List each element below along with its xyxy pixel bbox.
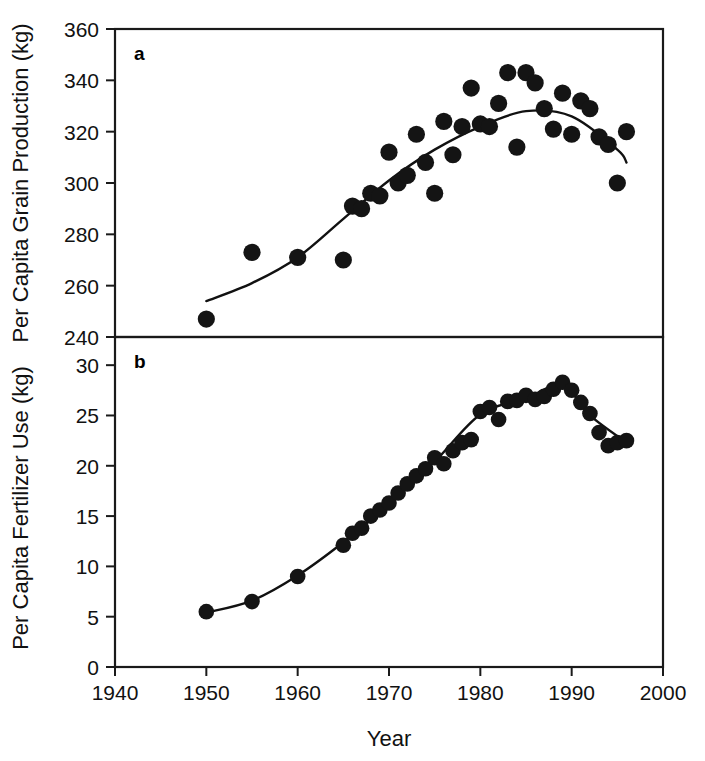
data-point — [444, 146, 461, 163]
y-tick-label: 240 — [64, 326, 99, 349]
data-point — [371, 187, 388, 204]
data-point — [508, 138, 525, 155]
y-tick-label: 300 — [64, 172, 99, 195]
data-point — [244, 594, 260, 610]
x-tick-label: 1970 — [366, 681, 413, 704]
x-tick-label: 2000 — [640, 681, 687, 704]
data-point — [618, 123, 635, 140]
data-point — [198, 310, 215, 327]
x-tick-label: 1950 — [183, 681, 230, 704]
y-tick-label: 320 — [64, 121, 99, 144]
data-point — [527, 74, 544, 91]
data-point — [600, 136, 617, 153]
data-point — [582, 406, 598, 422]
data-point — [481, 118, 498, 135]
figure-container: 240260280300320340360 a Per Capita Grain… — [0, 0, 705, 761]
y-tick-label: 360 — [64, 18, 99, 41]
data-point — [408, 126, 425, 143]
y-tick-label: 5 — [87, 606, 99, 629]
y-tick-label: 25 — [76, 404, 99, 427]
y-tick-label: 30 — [76, 354, 99, 377]
data-point — [563, 126, 580, 143]
y-tick-label: 280 — [64, 223, 99, 246]
data-point — [545, 121, 562, 138]
panel-b-y-axis-title: Per Capita Fertilizer Use (kg) — [8, 366, 33, 650]
y-tick-label: 340 — [64, 69, 99, 92]
data-point — [289, 249, 306, 266]
panel-a-label: a — [134, 43, 145, 64]
data-point — [499, 64, 516, 81]
data-point — [399, 167, 416, 184]
data-point — [536, 100, 553, 117]
y-tick-label: 15 — [76, 505, 99, 528]
data-point — [243, 244, 260, 261]
data-point — [490, 95, 507, 112]
data-point — [335, 251, 352, 268]
data-point — [554, 85, 571, 102]
data-point — [353, 200, 370, 217]
data-point — [453, 118, 470, 135]
x-tick-label: 1940 — [92, 681, 139, 704]
panel-b-label: b — [134, 351, 146, 372]
data-point — [609, 174, 626, 191]
two-panel-scatter-figure: 240260280300320340360 a Per Capita Grain… — [0, 0, 705, 761]
data-point — [435, 113, 452, 130]
x-tick-label: 1990 — [548, 681, 595, 704]
data-point — [380, 144, 397, 161]
data-point — [491, 412, 507, 428]
x-tick-label: 1980 — [457, 681, 504, 704]
data-point — [581, 100, 598, 117]
data-point — [199, 604, 215, 620]
data-point — [591, 425, 607, 441]
data-point — [463, 79, 480, 96]
y-tick-label: 10 — [76, 555, 99, 578]
figure-background — [0, 0, 705, 761]
data-point — [417, 154, 434, 171]
data-point — [619, 433, 635, 449]
data-point — [290, 569, 306, 585]
data-point — [426, 185, 443, 202]
panel-a-y-axis-title: Per Capita Grain Production (kg) — [8, 23, 33, 342]
x-tick-label: 1960 — [274, 681, 321, 704]
x-axis-title: Year — [367, 726, 411, 751]
data-point — [436, 456, 452, 472]
y-tick-label: 20 — [76, 455, 99, 478]
y-tick-label: 0 — [87, 656, 99, 679]
data-point — [463, 432, 479, 448]
y-tick-label: 260 — [64, 275, 99, 298]
